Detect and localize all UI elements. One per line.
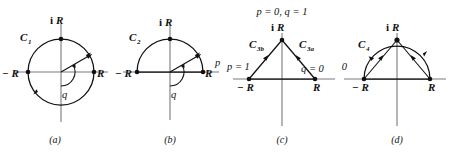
panel-a: C 1 i R R − R q (a) (0, 0, 115, 156)
panel-d-label-i: i (386, 21, 389, 33)
panel-b-contour-subscript: 2 (136, 38, 141, 46)
panel-a-node-R (92, 70, 97, 75)
panel-d-label-minus-R: − R (352, 81, 369, 93)
panel-c-label-i: i (271, 21, 274, 33)
panel-a-contour-label: C (20, 31, 28, 43)
panel-b-caption: (b) (164, 134, 176, 146)
panel-a-node-minus-R (26, 70, 31, 75)
panel-a-contour-subscript: 1 (28, 38, 32, 46)
panel-c: p = 0, q = 1 i R C 3b C 3a p = 1 q = 0 R… (225, 0, 340, 156)
panel-d-contour-label: C (358, 38, 366, 50)
panel-c-arrow-right-edge (296, 55, 302, 61)
panel-a-label-i: i (50, 14, 53, 26)
panel-a-angle-label: q (62, 89, 67, 100)
panel-d: i R C 4 = 0 R − R (d) (340, 0, 450, 156)
panel-b-param-label: p (214, 57, 220, 68)
panel-c-title: p = 0, q = 1 (256, 6, 308, 17)
panel-b-label-minus-R: − R (115, 67, 132, 79)
panel-c-caption: (c) (276, 134, 288, 146)
panel-c-arrow-left-edge (263, 55, 269, 61)
panel-c-right-param: q = 0 (301, 63, 325, 74)
panel-b-label-R: R (204, 67, 212, 79)
panel-b-angle-label: q (171, 89, 176, 100)
panel-a-label-iR-R: R (55, 14, 63, 26)
panel-b-label-iR-R: R (164, 16, 172, 28)
panel-c-label-R: R (312, 81, 320, 93)
panel-b: C 2 i R R − R q p (b) (115, 0, 225, 156)
panel-c-contour-label-left: C (249, 38, 257, 50)
panel-d-node-iR (394, 37, 399, 42)
panel-b-node-minus-R (135, 70, 140, 75)
panel-b-contour-label: C (129, 31, 137, 43)
contour-figure: C 1 i R R − R q (a) C 2 i R R (0, 0, 450, 156)
panel-a-node-iR (59, 37, 64, 42)
panel-c-contour-subscript-right: 3a (306, 45, 315, 53)
panel-d-arrow-arc-right (423, 51, 427, 56)
panel-d-caption: (d) (391, 134, 403, 146)
panel-c-contour-subscript-left: 3b (256, 45, 265, 53)
panel-d-label-iR-R: R (391, 21, 399, 33)
panel-a-label-R: R (96, 67, 104, 79)
panel-c-label-minus-R: − R (237, 81, 254, 93)
panel-a-label-minus-R: − R (2, 67, 19, 79)
panel-c-contour-label-right: C (299, 38, 307, 50)
panel-d-contour-subscript: 4 (365, 45, 370, 53)
panel-d-param-label: = 0 (340, 61, 348, 72)
panel-c-label-iR-R: R (276, 21, 284, 33)
panel-c-node-iR (280, 38, 285, 43)
panel-d-arrow-left-chord (378, 55, 384, 61)
panel-d-label-R: R (427, 81, 435, 93)
panel-d-arrow-right-chord (411, 55, 417, 61)
panel-c-left-param: p = 1 (226, 61, 250, 72)
panel-a-caption: (a) (49, 134, 61, 146)
panel-b-node-iR (168, 37, 173, 42)
panel-b-label-i: i (159, 16, 162, 28)
